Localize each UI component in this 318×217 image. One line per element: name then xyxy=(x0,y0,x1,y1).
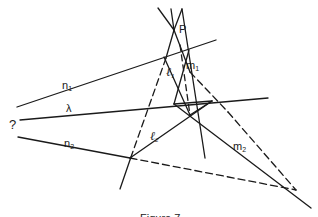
line-m2 xyxy=(174,104,311,208)
line-p-left-solid xyxy=(166,30,174,58)
line-p-down-dashed xyxy=(190,72,228,112)
label-l1-sub: 1 xyxy=(171,72,175,80)
line-lambda xyxy=(20,98,268,120)
label-n2: n2 xyxy=(64,138,74,150)
label-m1-sub: 1 xyxy=(195,65,199,72)
figure-caption: Figure 7 xyxy=(140,212,180,217)
label-n1: n1 xyxy=(62,80,72,92)
label-l1: ℓ1 xyxy=(166,66,175,80)
figure: P n1 λ ? n2 ℓ1 m1 ℓ2 m2 Figure 7 xyxy=(0,0,318,217)
label-m2: m2 xyxy=(233,141,246,153)
label-p: P xyxy=(179,24,186,35)
label-m2-text: m xyxy=(233,140,242,152)
label-n2-sub: 2 xyxy=(70,143,74,150)
label-m1: m1 xyxy=(186,60,199,72)
label-question: ? xyxy=(9,118,16,131)
label-m2-sub: 2 xyxy=(242,146,246,153)
label-l2-sub: 2 xyxy=(155,136,159,144)
line-p-left-bottom xyxy=(120,157,131,189)
label-lambda: λ xyxy=(66,103,72,114)
label-m1-text: m xyxy=(186,59,195,71)
line-n2-dashed xyxy=(130,158,296,190)
label-n1-sub: 1 xyxy=(68,85,72,92)
line-n1 xyxy=(17,40,216,107)
geometric-construction xyxy=(0,0,318,217)
label-l2: ℓ2 xyxy=(150,130,159,144)
